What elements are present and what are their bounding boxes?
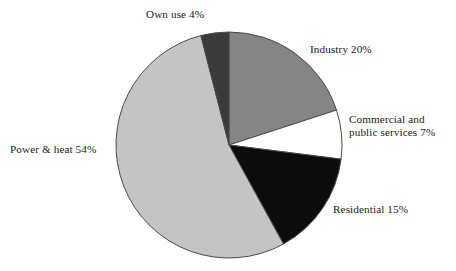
slice-label-commercial-public-services: Commercial and public services 7%	[349, 113, 456, 140]
slice-label-industry: Industry 20%	[310, 43, 372, 56]
slice-label-power-and-heat: Power & heat 54%	[10, 143, 96, 156]
slice-label-own-use: Own use 4%	[146, 8, 204, 21]
slice-label-residential: Residential 15%	[333, 203, 408, 216]
pie-slice-group	[116, 32, 342, 258]
slice-label-commercial-line2: public services 7%	[349, 126, 435, 138]
slice-label-commercial-line1: Commercial and	[349, 113, 425, 125]
pie-chart: Own use 4% Industry 20% Commercial and p…	[0, 0, 456, 271]
